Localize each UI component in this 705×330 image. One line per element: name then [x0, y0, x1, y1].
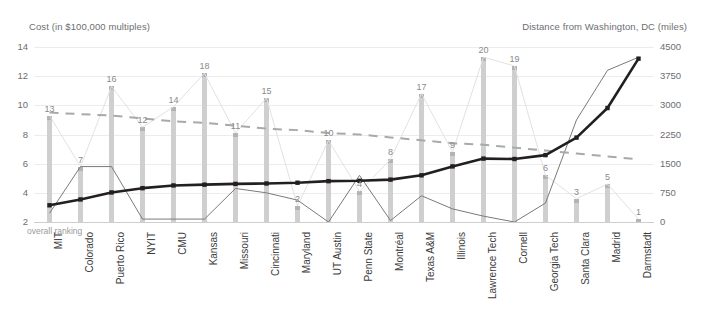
bar-value-label: 6 — [543, 164, 548, 173]
bar-value-label: 19 — [509, 55, 519, 64]
right-tick-label: 0 — [660, 217, 690, 227]
distance-point-marker — [78, 197, 82, 201]
x-axis-label: Maryland — [302, 232, 312, 273]
right-tick-label: 4500 — [660, 42, 690, 52]
distance-point-marker — [233, 182, 237, 186]
line-series — [34, 47, 654, 222]
bar-value-label: 4 — [357, 180, 362, 189]
x-axis-label: NYIT — [147, 232, 157, 255]
x-axis-label: Santa Clara — [581, 232, 591, 285]
bar-value-label: 20 — [478, 46, 488, 55]
bar-value-label: 15 — [261, 87, 271, 96]
left-tick-label: 10 — [0, 100, 28, 110]
right-tick-label: 3750 — [660, 71, 690, 81]
bar-value-label: 2 — [295, 195, 300, 204]
x-axis-labels: MITColoradoPuerto RicoNYITCMUKansasMisso… — [34, 232, 654, 327]
right-tick-label: 750 — [660, 188, 690, 198]
distance-point-marker — [295, 181, 299, 185]
x-axis-label: Texas A&M — [426, 232, 436, 282]
bar-value-label: 10 — [323, 129, 333, 138]
distance-point-marker — [202, 182, 206, 186]
bar-value-label: 8 — [388, 148, 393, 157]
left-tick-label: 4 — [0, 188, 28, 198]
distance-point-marker — [264, 181, 268, 185]
distance-point-marker — [605, 106, 609, 110]
right-tick-label: 2250 — [660, 130, 690, 140]
left-tick-label: 8 — [0, 130, 28, 140]
distance-point-marker — [481, 156, 485, 160]
x-axis-label: Darmstadt — [643, 232, 653, 278]
x-axis-label: MIT — [54, 232, 64, 249]
x-axis-label: Lawrence Tech — [488, 232, 498, 299]
left-axis-title: Cost (in $100,000 multiples) — [29, 21, 150, 32]
distance-point-marker — [47, 203, 51, 207]
left-tick-label: 14 — [0, 42, 28, 52]
distance-point-marker — [326, 179, 330, 183]
bar-value-label: 9 — [450, 141, 455, 150]
distance-point-marker — [109, 190, 113, 194]
left-tick-label: 2 — [0, 217, 28, 227]
right-axis-title: Distance from Washington, DC (miles) — [522, 21, 687, 32]
bar-value-label: 1 — [636, 208, 641, 217]
bar-value-label: 11 — [231, 122, 240, 131]
x-axis-label: Georgia Tech — [550, 232, 560, 291]
x-axis-label: Missouri — [240, 232, 250, 269]
right-tick-label: 3000 — [660, 100, 690, 110]
distance-line — [50, 59, 639, 206]
x-axis-label: Cincinnati — [271, 232, 281, 276]
distance-point-marker — [419, 173, 423, 177]
bar-value-label: 17 — [416, 83, 426, 92]
distance-point-marker — [140, 186, 144, 190]
x-axis-label: Illinois — [457, 232, 467, 260]
distance-point-marker — [636, 56, 640, 60]
bar-value-label: 13 — [44, 105, 54, 114]
x-axis-label: Penn State — [364, 232, 374, 281]
x-axis-label: Montréal — [395, 232, 405, 271]
x-axis-label: Puerto Rico — [116, 232, 126, 284]
left-tick-label: 6 — [0, 159, 28, 169]
distance-point-marker — [388, 177, 392, 181]
bar-value-label: 16 — [106, 75, 116, 84]
x-axis-label: Kansas — [209, 232, 219, 265]
x-axis-label: UT Austin — [333, 232, 343, 275]
distance-point-marker — [171, 183, 175, 187]
distance-point-marker — [512, 157, 516, 161]
plot-area: 1371612141811152104817920196351 — [34, 47, 654, 222]
bar-value-label: 5 — [605, 173, 610, 182]
bar-value-label: 12 — [137, 116, 147, 125]
x-axis-label: Cornell — [519, 232, 529, 264]
distance-point-marker — [543, 153, 547, 157]
bar-value-label: 7 — [78, 156, 83, 165]
distance-point-marker — [450, 164, 454, 168]
bar-value-label: 3 — [574, 188, 579, 197]
cost-line — [50, 57, 639, 222]
chart-root: Cost (in $100,000 multiples) Distance fr… — [0, 0, 705, 330]
x-axis-label: Colorado — [85, 232, 95, 273]
right-tick-label: 1500 — [660, 159, 690, 169]
x-axis-label: Madrid — [612, 232, 622, 263]
x-axis-label: CMU — [178, 232, 188, 255]
distance-point-marker — [574, 135, 578, 139]
bar-value-label: 18 — [199, 62, 209, 71]
axis-baseline — [34, 222, 654, 223]
left-tick-label: 12 — [0, 71, 28, 81]
bar-value-label: 14 — [168, 96, 178, 105]
ranking-connector-line — [50, 57, 639, 219]
